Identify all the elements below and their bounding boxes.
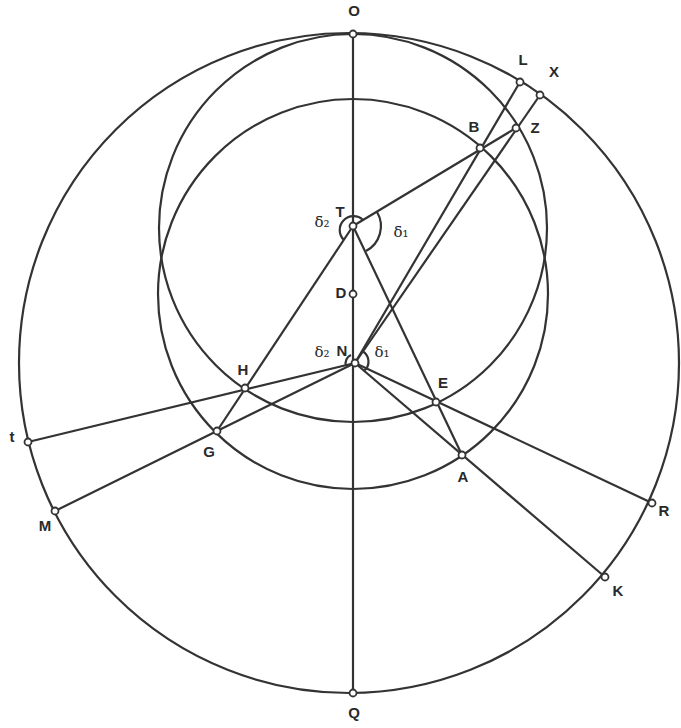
point-N — [352, 360, 359, 367]
segment-N-K — [355, 363, 605, 577]
point-Q — [350, 690, 357, 697]
point-L — [517, 79, 524, 86]
label-D: D — [336, 284, 347, 301]
label-angle-N-delta2: δ₂ — [314, 343, 329, 361]
segment-N-X — [355, 95, 540, 363]
labels-group: O L X B Z T D N H E t G A M R K Q δ̄₂ δ̄… — [10, 2, 670, 721]
label-M: M — [39, 517, 52, 534]
point-E — [433, 399, 440, 406]
diagram-canvas: O L X B Z T D N H E t G A M R K Q δ̄₂ δ̄… — [0, 0, 681, 728]
label-B: B — [469, 118, 480, 135]
segment-N-t — [28, 363, 355, 442]
point-D — [350, 291, 357, 298]
point-B — [477, 145, 484, 152]
segment-T-G — [217, 226, 353, 431]
label-G: G — [203, 443, 215, 460]
label-H: H — [238, 361, 249, 378]
point-T — [350, 223, 357, 230]
point-M — [52, 508, 59, 515]
circles-group — [19, 33, 679, 693]
label-K: K — [613, 582, 624, 599]
outer-circle — [19, 33, 679, 693]
label-O: O — [348, 2, 360, 19]
label-Q: Q — [348, 704, 360, 721]
point-t — [25, 439, 32, 446]
label-angle-T-delta2: δ̄₂ — [314, 213, 329, 231]
segment-N-R — [355, 363, 652, 503]
label-Z: Z — [530, 119, 539, 136]
label-R: R — [659, 502, 670, 519]
point-H — [242, 385, 249, 392]
label-X: X — [549, 63, 559, 80]
point-O — [350, 31, 357, 38]
label-L: L — [518, 51, 527, 68]
point-K — [602, 574, 609, 581]
points-group — [25, 31, 656, 697]
point-A — [459, 452, 466, 459]
label-t: t — [10, 428, 15, 445]
label-A: A — [458, 468, 469, 485]
geometry-diagram: O L X B Z T D N H E t G A M R K Q δ̄₂ δ̄… — [0, 0, 681, 728]
point-X — [537, 92, 544, 99]
label-N: N — [337, 342, 348, 359]
point-G — [214, 428, 221, 435]
label-E: E — [438, 374, 448, 391]
segments-group — [28, 34, 652, 693]
label-angle-T-delta1: δ̄₁ — [393, 223, 408, 241]
label-T: T — [335, 203, 344, 220]
label-angle-N-delta1: δ₁ — [374, 343, 389, 361]
segment-N-M — [55, 363, 355, 511]
point-R — [649, 500, 656, 507]
point-Z — [513, 125, 520, 132]
segment-T-Z — [353, 128, 516, 226]
